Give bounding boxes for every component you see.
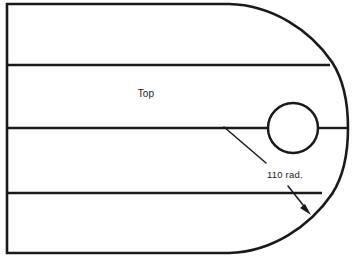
technical-drawing-canvas: Top 110 rad. bbox=[0, 0, 356, 260]
radius-leader-arrowhead-icon bbox=[300, 204, 311, 215]
hole-circle bbox=[268, 103, 318, 153]
radius-leader-line-upper bbox=[224, 127, 266, 163]
view-label: Top bbox=[138, 88, 155, 99]
radius-callout-label: 110 rad. bbox=[267, 169, 303, 180]
drawing-svg: Top 110 rad. bbox=[0, 0, 356, 260]
